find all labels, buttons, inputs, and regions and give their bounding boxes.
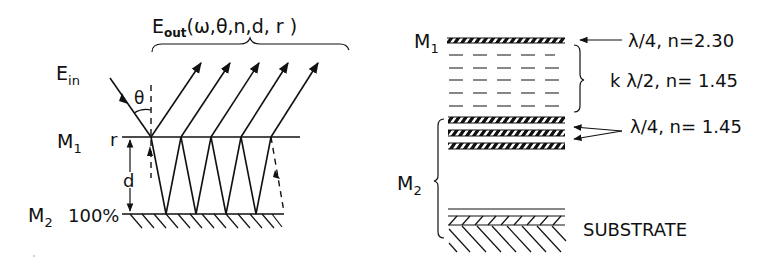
stack-m2-label: M2 xyxy=(397,172,422,198)
right-panel-layer-stack: M1 λ/4, n=2.30 k λ/2, n= 1.45 xyxy=(397,30,742,252)
gap-d-label: d xyxy=(123,170,134,191)
spacer-layer-dashes xyxy=(449,55,562,106)
incident-ray-arrowhead xyxy=(119,93,128,104)
substrate-label: SUBSTRATE xyxy=(583,219,687,240)
input-field-label: Ein xyxy=(56,62,80,88)
mirror-m2-brace xyxy=(434,119,444,238)
output-rays xyxy=(151,63,318,137)
reflectivity-100-label: 100% xyxy=(68,205,119,226)
substrate-block xyxy=(448,209,566,252)
stack-pointer-arrow-2 xyxy=(574,131,622,139)
angle-theta-label: θ xyxy=(134,88,144,108)
diagram-canvas: Eout(ω,θ,n,d, r ) Ein θ xyxy=(0,0,761,272)
scan-speck xyxy=(33,255,35,257)
left-panel-interferometer: Eout(ω,θ,n,d, r ) Ein θ xyxy=(28,15,349,230)
top-high-index-layer xyxy=(447,38,565,43)
reflectivity-r-label: r xyxy=(110,129,118,150)
output-field-label: Eout(ω,θ,n,d, r ) xyxy=(152,15,297,40)
mirror-m2-label: M2 xyxy=(28,204,53,230)
mirror-m1-label: M1 xyxy=(57,130,82,156)
output-brace xyxy=(152,38,349,52)
stack-pointer-arrow-1 xyxy=(574,127,622,131)
stack-m1-label: M1 xyxy=(414,30,439,56)
mirror-m2-hatching xyxy=(130,214,282,228)
spacer-label: k λ/2, n= 1.45 xyxy=(610,70,738,91)
internal-reflection-path xyxy=(151,137,271,214)
stack-layer-label: λ/4, n= 1.45 xyxy=(630,116,742,137)
quarter-wave-stack xyxy=(448,117,565,149)
angle-arc xyxy=(134,109,151,113)
spacer-brace xyxy=(574,45,584,112)
internal-arrowhead xyxy=(147,146,153,156)
top-layer-label: λ/4, n=2.30 xyxy=(628,30,734,51)
